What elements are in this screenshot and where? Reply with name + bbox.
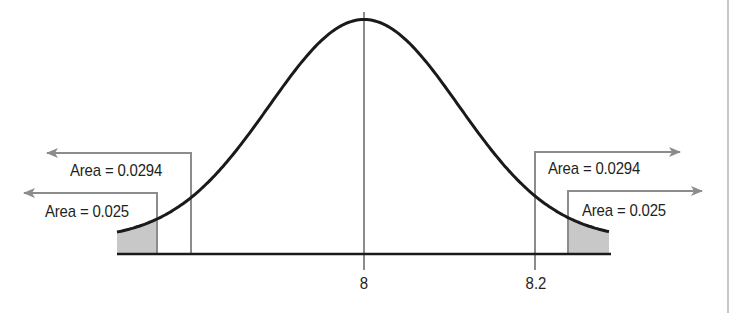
right-shaded-tail <box>568 218 609 254</box>
left-shaded-tail <box>117 219 157 254</box>
right-inner-area-label: Area = 0.025 <box>582 201 666 221</box>
right-outer-area-label: Area = 0.0294 <box>548 159 640 179</box>
tick-label-value: 8.2 <box>526 274 547 294</box>
tick-label-mean: 8 <box>360 274 368 294</box>
normal-curve-figure <box>0 0 730 313</box>
left-inner-area-label: Area = 0.025 <box>45 202 129 222</box>
left-outer-area-label: Area = 0.0294 <box>70 161 162 181</box>
